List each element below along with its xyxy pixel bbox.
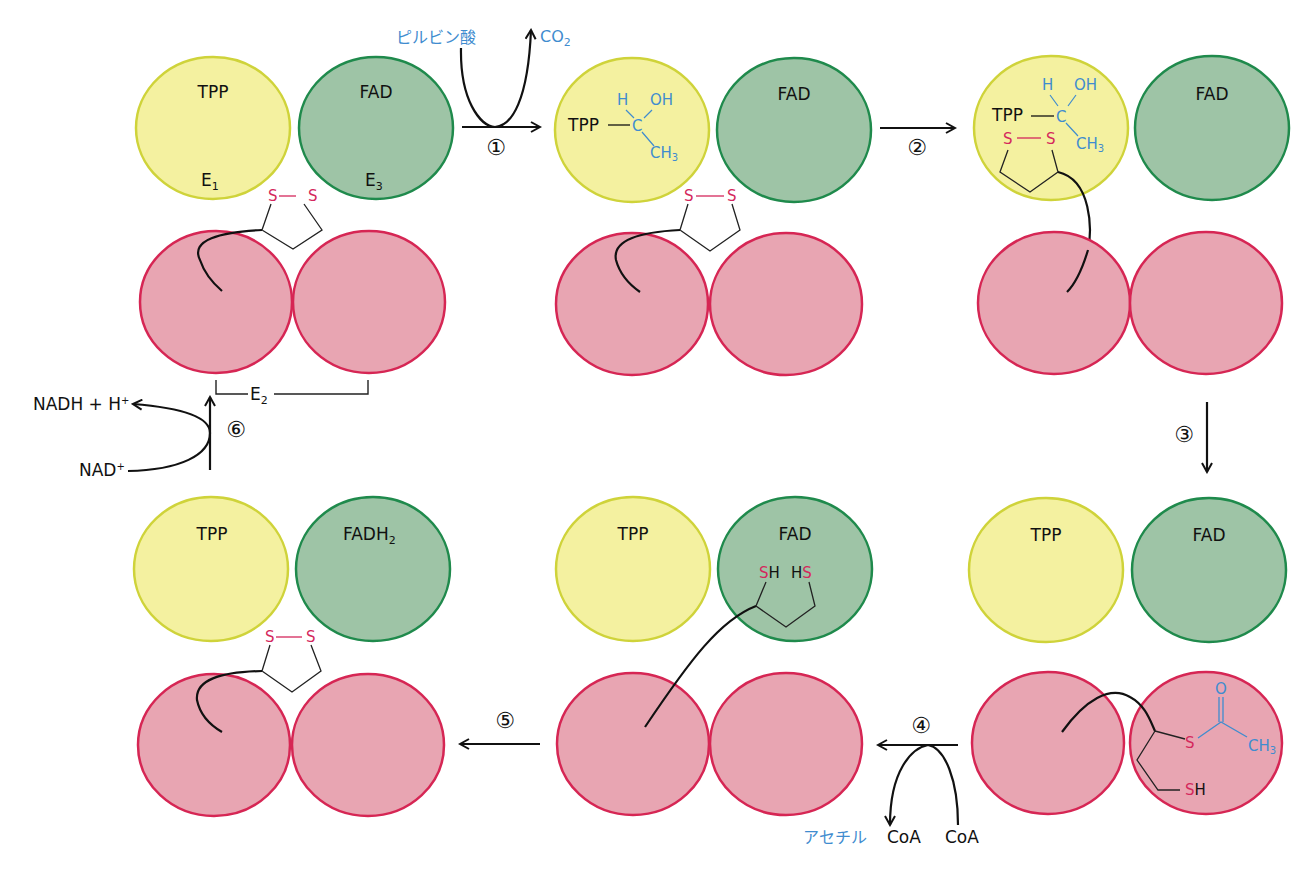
e3-circle (1132, 498, 1286, 642)
acetyl-coa-label: CoA (887, 827, 921, 847)
e2-right-circle (293, 231, 445, 373)
sulfur-label: S (308, 187, 318, 205)
carbon-label: C (632, 117, 642, 135)
e2-left-circle (138, 674, 290, 816)
e2-right-circle (292, 674, 444, 816)
panel-3: FAD TPP C H OH CH3 S S (974, 56, 1289, 374)
pyruvate-dehydrogenase-diagram: TPP FAD E1 E3 S S E2 ピルビン酸 CO2 ① FAD TPP… (0, 0, 1313, 871)
sulfur-label: S (684, 187, 694, 205)
e2-right-circle (710, 673, 862, 815)
oxygen-label: O (1215, 680, 1227, 698)
hydroxyl-label: OH (650, 91, 673, 109)
sulfur-label: S (1003, 130, 1013, 148)
tpp-label: TPP (197, 82, 229, 102)
step-6-number: ⑥ (226, 417, 246, 442)
sulfur-label: S (268, 187, 278, 205)
sulfur-label: S (727, 187, 737, 205)
panel-4: TPP FAD S O CH3 SH (969, 498, 1286, 814)
step-2-number: ② (907, 135, 927, 160)
sulfur-label: S (1046, 130, 1056, 148)
carbon-label: C (1056, 108, 1066, 126)
hydrogen-label: H (1042, 76, 1053, 94)
tpp-label: TPP (196, 524, 228, 544)
e3-circle (299, 57, 453, 199)
e3-circle (717, 58, 871, 202)
pyruvate-label: ピルビン酸 (396, 28, 476, 47)
e3-circle (1135, 56, 1289, 200)
e2-label: E2 (250, 384, 268, 407)
tpp-label: TPP (617, 524, 649, 544)
coa-label: CoA (945, 827, 979, 847)
step-5-number: ⑤ (495, 708, 515, 733)
e1-circle (556, 497, 710, 641)
sulfur-label: S (1185, 734, 1195, 752)
e2-right-circle (1130, 232, 1282, 374)
sulfur-label: S (306, 628, 316, 646)
step-3: ③ (1174, 402, 1207, 472)
thiol-label: SH (1185, 781, 1206, 799)
e2-left-circle (972, 672, 1124, 814)
step-1-number: ① (486, 135, 506, 160)
e2-left-circle (557, 673, 709, 815)
fad-label: FAD (360, 82, 393, 102)
fad-label: FAD (1193, 525, 1226, 545)
thiol-label: SH (759, 564, 780, 582)
fad-label: FAD (778, 84, 811, 104)
e2-left-circle (556, 233, 708, 375)
hydroxyl-label: OH (1074, 76, 1097, 94)
tpp-label: TPP (567, 115, 599, 135)
acetyl-label: アセチル (803, 828, 867, 847)
e3-circle (296, 497, 450, 641)
panel-6: TPP FADH2 S S (134, 497, 450, 816)
fad-label: FAD (779, 524, 812, 544)
e1-circle (134, 497, 288, 641)
e2-left-circle (140, 231, 292, 373)
panel-1: TPP FAD E1 E3 S S E2 (136, 57, 453, 407)
e2-right-circle (710, 233, 862, 375)
tpp-label: TPP (991, 105, 1023, 125)
panel-2: FAD TPP C H OH CH3 S S (555, 58, 871, 375)
nadh-label: NADH + H+ (33, 394, 129, 414)
thiol-label: HS (791, 564, 812, 582)
co2-label: CO2 (540, 27, 571, 49)
panel-5: TPP FAD SH HS (556, 497, 872, 815)
step-3-number: ③ (1174, 422, 1194, 447)
tpp-label: TPP (1030, 525, 1062, 545)
hydrogen-label: H (617, 91, 628, 109)
e1-circle (969, 498, 1123, 642)
step-5: ⑤ (460, 708, 540, 744)
fad-label: FAD (1196, 84, 1229, 104)
step-6: ⑥ NADH + H+ NAD+ (33, 394, 246, 480)
nad-label: NAD+ (79, 460, 125, 480)
e1-circle (136, 57, 290, 199)
step-4-number: ④ (911, 713, 931, 738)
step-2: ② (880, 128, 955, 160)
sulfur-label: S (265, 628, 275, 646)
e2-left-circle (978, 232, 1130, 374)
fadh2-label: FADH2 (343, 524, 396, 547)
